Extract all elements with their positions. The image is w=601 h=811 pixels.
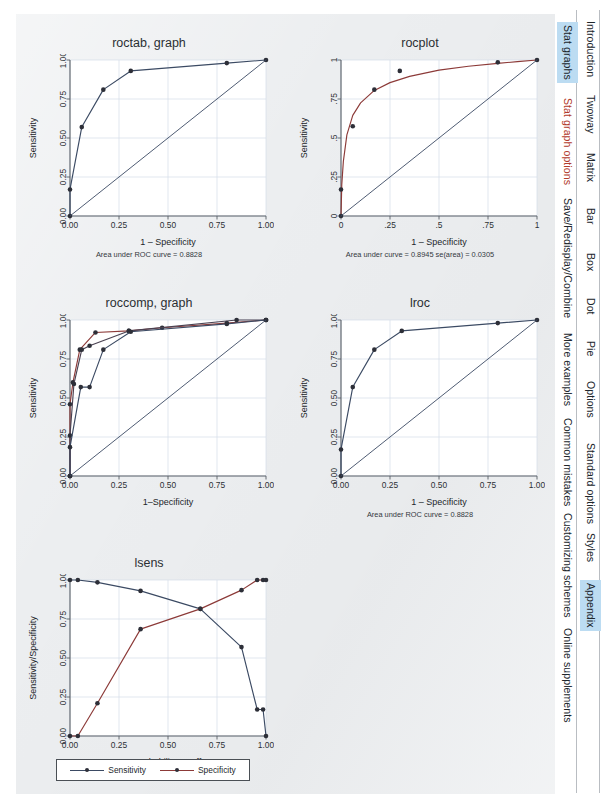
data-point (95, 701, 100, 706)
legend-swatch (70, 770, 104, 771)
chart-caption: Area under ROC curve = 0.8828 (24, 250, 274, 259)
sidebar-tab-common-mistakes[interactable]: Common mistakes (557, 415, 578, 509)
y-axis-label: Sensitivity (28, 117, 38, 158)
y-tick-label: 1 (329, 57, 339, 62)
plot-area: 0.000.000.250.250.500.500.750.751.001.00… (24, 574, 274, 774)
y-tick-label: 0.25 (58, 169, 68, 186)
x-tick-label: 1 (535, 220, 540, 230)
legend-swatch (160, 770, 194, 771)
y-tick-label: 0.50 (58, 390, 68, 407)
plot-svg-rocplot: 00.25.25.5.5.75.75111 – SpecificitySensi… (295, 54, 545, 250)
data-point (76, 734, 81, 739)
y-tick-label: 1.00 (58, 54, 68, 68)
sidebar-tab-label: Bar (585, 208, 597, 225)
y-tick-label: 0.25 (329, 429, 339, 446)
sidebar-tab-pie[interactable]: Pie (580, 338, 601, 359)
x-tick-label: 0.75 (480, 480, 497, 490)
data-point (68, 445, 73, 450)
data-point (239, 588, 244, 593)
y-tick-label: 0 (329, 213, 339, 218)
x-tick-label: 0.75 (209, 220, 226, 230)
plot-svg-lsens: 0.000.000.250.250.500.500.750.751.001.00… (24, 574, 274, 770)
chart-caption: Area under ROC curve = 0.8828 (295, 510, 545, 519)
sidebar-tab-online-supplements[interactable]: Online supplements (557, 625, 578, 726)
data-point (234, 318, 239, 323)
x-tick-label: 0.50 (160, 740, 177, 750)
data-point (399, 329, 404, 334)
sidebar-tab-stat-graph-options[interactable]: Stat graph options (557, 95, 578, 188)
sidebar-tab-save-redisplay-combine[interactable]: Save/Redisplay/Combine (557, 195, 578, 321)
y-tick-label: .5 (329, 134, 339, 141)
sidebar-tab-appendix[interactable]: Appendix (580, 580, 601, 631)
sidebar-tab-label: Pie (585, 341, 597, 356)
y-tick-label: 0.25 (58, 429, 68, 446)
data-point (79, 125, 84, 130)
data-point (198, 607, 203, 612)
x-tick-label: 1.00 (529, 480, 545, 490)
x-tick-label: .75 (482, 220, 494, 230)
x-tick-label: 1.00 (258, 220, 274, 230)
x-tick-label: 0.25 (111, 480, 128, 490)
y-tick-label: 0.50 (329, 390, 339, 407)
data-point (350, 385, 355, 390)
chart-caption: Area under curve = 0.8945 se(area) = 0.0… (295, 250, 545, 259)
chart-title: roccomp, graph (24, 296, 274, 310)
sidebar-tab-customizing-schemes[interactable]: Customizing schemes (557, 510, 578, 621)
sidebar-tab-stat-graphs[interactable]: Stat graphs (557, 22, 578, 83)
sidebar-tab-label: Appendix (585, 583, 597, 628)
sidebar-tab-more-examples[interactable]: More examples (557, 330, 578, 409)
data-point (101, 347, 106, 352)
data-point (225, 322, 230, 327)
x-tick-label: 0.75 (209, 480, 226, 490)
chart-title: roctab, graph (24, 36, 274, 50)
data-point (264, 578, 269, 583)
plot-area: 0.000.000.250.250.500.500.750.751.001.00… (295, 314, 545, 514)
data-point (261, 707, 266, 712)
y-tick-label: 0.00 (329, 468, 339, 485)
sidebar-tab-dot[interactable]: Dot (580, 295, 601, 318)
y-tick-label: 0.00 (58, 208, 68, 225)
y-tick-label: 0.75 (58, 611, 68, 628)
x-tick-label: 1.00 (258, 740, 274, 750)
data-point (239, 645, 244, 650)
y-axis-label: Sensitivity/Specificity (28, 616, 38, 700)
sidebar-tab-label: Stat graphs (562, 25, 574, 80)
chart-legend: SensitivitySpecificity (56, 759, 250, 781)
y-tick-label: 1.00 (329, 314, 339, 328)
sidebar-tab-styles[interactable]: Styles (580, 530, 601, 565)
data-point (264, 734, 269, 739)
plot-area: 00.25.25.5.5.75.75111 – SpecificitySensi… (295, 54, 545, 254)
sidebar-tab-twoway[interactable]: Twoway (580, 92, 601, 137)
data-point (128, 329, 133, 334)
sidebar-tab-label: Matrix (585, 153, 597, 182)
sidebar-tab-introduction[interactable]: Introduction (580, 18, 601, 80)
y-tick-label: 1.00 (58, 314, 68, 328)
sidebar-tab-standard-options[interactable]: Standard options (580, 440, 601, 527)
data-point (68, 402, 73, 407)
x-tick-label: 0.50 (431, 480, 448, 490)
sidebar-tab-matrix[interactable]: Matrix (580, 150, 601, 185)
y-tick-label: .75 (329, 93, 339, 105)
plot-area: 0.000.000.250.250.500.500.750.751.001.00… (24, 54, 274, 254)
data-point (87, 343, 92, 348)
sidebar-tab-label: More examples (562, 333, 574, 406)
chart-title: lroc (295, 296, 545, 310)
data-point (398, 69, 403, 74)
sidebar-tab-label: Box (585, 253, 597, 271)
sidebar-tab-label: Online supplements (562, 628, 574, 723)
data-point (68, 578, 73, 583)
y-axis-label: Sensitivity (28, 377, 38, 418)
plot-svg-lroc: 0.000.000.250.250.500.500.750.751.001.00… (295, 314, 545, 510)
sidebar-tab-label: Styles (585, 533, 597, 562)
data-point (496, 321, 501, 326)
sidebar-tab-label: Options (585, 381, 597, 418)
data-point (87, 385, 92, 390)
sidebar-tab-box[interactable]: Box (580, 250, 601, 274)
y-tick-label: 0.00 (58, 728, 68, 745)
sidebar-tab-bar[interactable]: Bar (580, 205, 601, 228)
data-point (255, 578, 260, 583)
legend-entry: Sensitivity (70, 765, 146, 775)
sidebar-tab-options[interactable]: Options (580, 378, 601, 421)
y-tick-label: 1.00 (58, 574, 68, 588)
data-point (68, 734, 73, 739)
